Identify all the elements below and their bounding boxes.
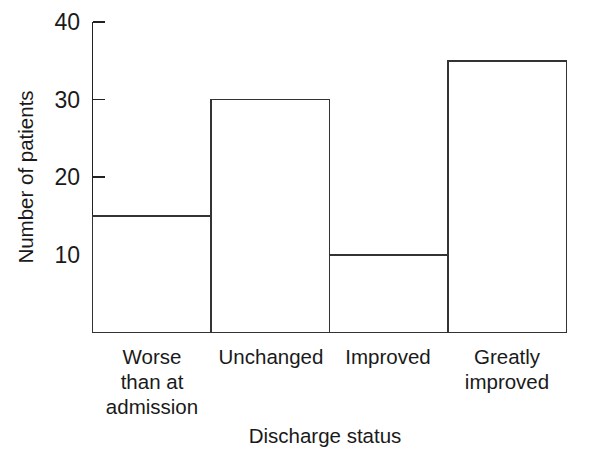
- bar-improved: [330, 255, 449, 333]
- x-category-label-worse-line2: than at: [121, 370, 184, 393]
- chart-canvas: 40 30 20 10 Worse than at admission Unch…: [0, 0, 594, 463]
- bar-unchanged: [211, 100, 330, 333]
- y-tick-label-30: 30: [54, 87, 80, 113]
- x-category-label-worse-line3: admission: [106, 395, 198, 418]
- y-tick-label-40: 40: [54, 9, 80, 35]
- bar-chart-figure: 40 30 20 10 Worse than at admission Unch…: [0, 0, 594, 463]
- x-category-label-greatly-line1: Greatly: [474, 345, 541, 368]
- x-axis-title: Discharge status: [249, 424, 402, 447]
- bar-worse-than-at-admission: [93, 216, 212, 332]
- x-category-label-unchanged: Unchanged: [219, 345, 324, 368]
- x-category-label-greatly-line2: improved: [465, 370, 549, 393]
- y-axis-title: Number of patients: [14, 90, 37, 263]
- bar-greatly-improved: [448, 61, 567, 333]
- y-tick-label-20: 20: [54, 164, 80, 190]
- x-category-label-worse-line1: Worse: [123, 345, 182, 368]
- x-category-label-improved: Improved: [345, 345, 430, 368]
- y-tick-label-10: 10: [54, 242, 80, 268]
